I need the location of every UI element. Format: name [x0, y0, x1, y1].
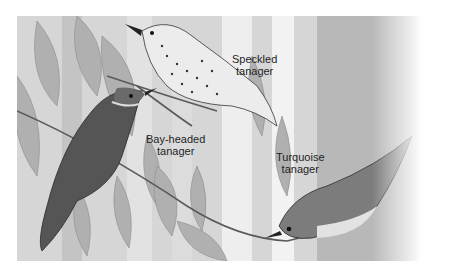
label-speckled-tanager: Speckled tanager	[232, 53, 277, 77]
tanager-illustration	[17, 16, 432, 261]
label-turquoise-line2: tanager	[276, 163, 325, 175]
label-bay-headed-line1: Bay-headed	[146, 133, 205, 145]
forest-background	[17, 16, 432, 261]
label-bay-headed-line2: tanager	[146, 145, 205, 157]
label-speckled-line2: tanager	[232, 65, 277, 77]
label-turquoise-tanager: Turquoise tanager	[276, 151, 325, 175]
label-speckled-line1: Speckled	[232, 53, 277, 65]
label-turquoise-line1: Turquoise	[276, 151, 325, 163]
label-bay-headed-tanager: Bay-headed tanager	[146, 133, 205, 157]
edge-fade	[372, 16, 432, 261]
